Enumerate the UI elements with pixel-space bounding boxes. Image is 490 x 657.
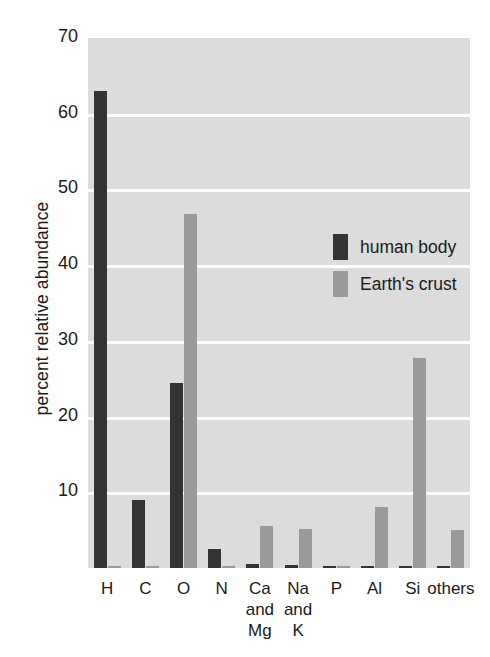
bar-human-body <box>285 565 298 568</box>
bar-human-body <box>361 566 374 569</box>
plot-area: human body Earth's crust <box>88 38 470 568</box>
bar-human-body <box>437 566 450 569</box>
legend-label: human body <box>360 237 456 258</box>
bar-earths-crust <box>222 566 235 569</box>
bar-earths-crust <box>413 358 426 568</box>
legend-item-human-body: human body <box>333 234 457 260</box>
gridline <box>88 189 470 192</box>
chart-legend: human body Earth's crust <box>333 234 457 308</box>
x-tick-line: K <box>263 620 333 641</box>
bar-earths-crust <box>375 507 388 568</box>
y-axis-tick-label: 40 <box>32 253 78 274</box>
y-axis-tick-label: 70 <box>32 26 78 47</box>
x-axis-tick-label: others <box>416 578 486 599</box>
x-tick-line: others <box>416 578 486 599</box>
legend-swatch-icon <box>333 271 348 297</box>
bar-earths-crust <box>260 526 273 568</box>
bar-human-body <box>246 564 259 568</box>
y-axis-tick-label: 10 <box>32 480 78 501</box>
bar-human-body <box>170 383 183 569</box>
y-axis-tick-label: 20 <box>32 405 78 426</box>
legend-item-earths-crust: Earth's crust <box>333 271 457 297</box>
gridline <box>88 341 470 344</box>
bar-human-body <box>323 566 336 569</box>
bar-human-body <box>132 500 145 568</box>
bar-earths-crust <box>108 566 121 569</box>
bar-earths-crust <box>184 214 197 568</box>
legend-swatch-icon <box>333 234 348 260</box>
bar-human-body <box>94 91 107 568</box>
bar-earths-crust <box>146 566 159 569</box>
bar-earths-crust <box>337 566 350 569</box>
bar-earths-crust <box>451 530 464 568</box>
bar-human-body <box>399 566 412 569</box>
y-axis-tick-label: 50 <box>32 177 78 198</box>
gridline <box>88 114 470 117</box>
y-axis-tick-label: 30 <box>32 329 78 350</box>
legend-label: Earth's crust <box>360 274 457 295</box>
bar-earths-crust <box>299 529 312 568</box>
x-tick-line: and <box>263 599 333 620</box>
bar-chart-figure: percent relative abundance 7060504030201… <box>0 0 490 657</box>
y-axis-tick-label: 60 <box>32 102 78 123</box>
bar-human-body <box>208 549 221 568</box>
